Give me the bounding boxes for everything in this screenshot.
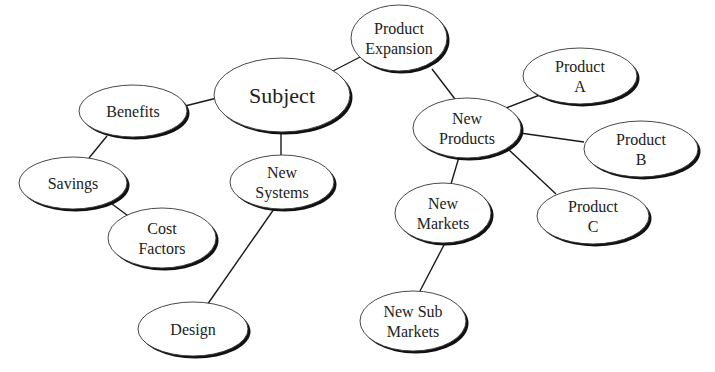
node-ellipse	[584, 121, 698, 177]
node-product-a: ProductA	[523, 48, 640, 107]
node-label-line: Product	[616, 131, 666, 148]
node-label-line: Product	[555, 58, 605, 75]
edge-benefits-to-savings	[89, 136, 107, 158]
node-design: Design	[138, 302, 251, 359]
node-label-line: New Sub	[383, 303, 442, 320]
edge-new-products-to-product-b	[520, 133, 584, 142]
node-new-systems: NewSystems	[230, 155, 337, 212]
node-label-line: Systems	[255, 184, 308, 202]
node-label: Benefits	[106, 103, 159, 120]
edge-product-expansion-to-new-products	[432, 69, 455, 99]
edge-new-markets-to-new-sub-markets	[420, 243, 445, 291]
node-new-sub-markets: New SubMarkets	[360, 291, 469, 354]
node-benefits: Benefits	[79, 85, 190, 140]
node-label-line: Product	[374, 20, 424, 37]
node-label-line: Product	[568, 198, 618, 215]
node-label-line: New	[452, 110, 483, 127]
node-ellipse	[523, 48, 637, 104]
node-product-expansion: ProductExpansion	[351, 5, 450, 74]
node-label: Subject	[249, 83, 315, 108]
node-new-markets: NewMarkets	[395, 183, 494, 246]
node-label-line: C	[588, 218, 599, 235]
node-label-line: Markets	[387, 323, 439, 340]
node-cost-factors: CostFactors	[108, 208, 219, 271]
node-label-line: Subject	[249, 83, 315, 108]
node-ellipse	[360, 291, 466, 351]
node-label-line: New	[267, 164, 298, 181]
node-product-c: ProductC	[537, 188, 652, 247]
edge-subject-to-product-expansion	[333, 56, 362, 71]
node-label-line: Products	[439, 130, 495, 147]
node-label-line: Benefits	[106, 103, 159, 120]
node-label-line: Design	[170, 321, 215, 339]
node-label-line: New	[428, 195, 459, 212]
node-label-line: Markets	[417, 215, 469, 232]
edge-subject-to-benefits	[185, 98, 217, 106]
node-ellipse	[413, 98, 521, 158]
node-savings: Savings	[19, 157, 130, 212]
node-ellipse	[351, 5, 447, 71]
node-label: Design	[170, 321, 215, 339]
node-label: Savings	[48, 175, 99, 193]
node-subject: Subject	[214, 58, 353, 135]
node-ellipse	[108, 208, 216, 268]
node-product-b: ProductB	[584, 121, 701, 180]
node-label-line: A	[574, 78, 586, 95]
mind-map-diagram: SubjectProductExpansionBenefitsSavingsCo…	[0, 0, 715, 372]
node-label-line: Factors	[138, 240, 185, 257]
node-label-line: Expansion	[365, 40, 433, 58]
node-label-line: Savings	[48, 175, 99, 193]
edge-new-products-to-new-markets	[451, 157, 459, 184]
node-label-line: Cost	[147, 220, 177, 237]
edge-new-systems-to-design	[207, 209, 274, 305]
node-ellipse	[537, 188, 649, 244]
nodes-layer: SubjectProductExpansionBenefitsSavingsCo…	[19, 5, 701, 359]
node-label-line: B	[636, 151, 647, 168]
node-new-products: NewProducts	[413, 98, 524, 161]
node-ellipse	[395, 183, 491, 243]
edge-new-products-to-product-c	[507, 148, 556, 194]
